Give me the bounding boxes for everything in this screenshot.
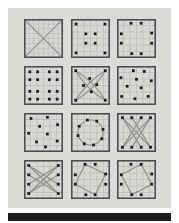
panel-4-four-clusters <box>24 66 63 105</box>
dot <box>83 163 86 166</box>
dot <box>84 193 87 196</box>
dot <box>103 99 106 102</box>
dot <box>120 76 123 79</box>
dot <box>93 163 96 166</box>
dot <box>56 90 59 93</box>
dot <box>27 173 30 176</box>
dot <box>103 69 106 72</box>
panel-2-corners-inner-square <box>71 19 110 58</box>
dot <box>100 137 103 140</box>
panel-11-tilted-quad-a <box>71 160 110 199</box>
dot <box>84 42 87 45</box>
panel-10-left-right-cross <box>24 160 63 199</box>
dot <box>56 70 59 73</box>
dot <box>103 52 106 55</box>
dot <box>56 123 59 126</box>
dot <box>140 52 143 55</box>
dot <box>36 70 39 73</box>
dot <box>27 192 30 195</box>
dot <box>27 164 30 167</box>
dot <box>73 173 76 176</box>
dot <box>150 32 153 35</box>
dot <box>46 116 49 119</box>
dot <box>126 85 129 88</box>
dot <box>130 116 133 119</box>
dot <box>140 116 143 119</box>
dot <box>89 90 92 93</box>
dot <box>120 173 123 176</box>
dot <box>74 69 77 72</box>
dot <box>27 183 30 186</box>
dot <box>140 22 143 25</box>
dot <box>95 120 98 123</box>
dot <box>150 183 153 186</box>
dot <box>140 193 143 196</box>
panel-8-circle-ring <box>71 113 110 152</box>
dot <box>150 42 153 45</box>
panel-grid <box>24 19 156 199</box>
dot <box>82 142 85 145</box>
panel-7-scatter-b <box>24 113 63 152</box>
screenshot-root <box>0 0 179 223</box>
dot <box>84 32 87 35</box>
dot <box>28 90 31 93</box>
dot <box>130 163 133 166</box>
dot <box>140 163 143 166</box>
dot <box>48 70 51 73</box>
dot <box>88 77 91 80</box>
panel-6-scatter-a <box>117 66 156 105</box>
dot <box>121 146 124 149</box>
dot <box>28 78 31 81</box>
dot <box>56 140 59 143</box>
dot <box>56 98 59 101</box>
dot <box>147 95 150 98</box>
dot <box>120 95 123 98</box>
figure-plate <box>8 8 171 208</box>
dot <box>130 193 133 196</box>
dot <box>150 173 153 176</box>
dot <box>28 70 31 73</box>
dot <box>140 146 143 149</box>
dot <box>101 128 104 131</box>
dot <box>130 146 133 149</box>
bottom-rule-bar <box>8 213 171 221</box>
dot <box>92 144 95 147</box>
dot <box>57 183 60 186</box>
dot <box>82 84 85 87</box>
dot <box>103 23 106 26</box>
dot <box>120 183 123 186</box>
dot <box>35 140 38 143</box>
panel-9-top-bottom-cross <box>117 113 156 152</box>
dot <box>76 134 79 137</box>
dot <box>104 173 107 176</box>
dot <box>74 52 77 55</box>
dot <box>93 42 96 45</box>
dot <box>48 90 51 93</box>
dot <box>120 42 123 45</box>
dot <box>44 146 47 149</box>
dot <box>130 52 133 55</box>
dot <box>46 133 49 136</box>
dot <box>149 146 152 149</box>
dot <box>28 98 31 101</box>
dot <box>48 98 51 101</box>
dot <box>135 78 138 81</box>
dot <box>93 193 96 196</box>
dot <box>149 116 152 119</box>
dot <box>57 192 60 195</box>
dot <box>74 99 77 102</box>
dot <box>30 117 33 120</box>
dot <box>120 32 123 35</box>
dot <box>36 90 39 93</box>
dot <box>130 22 133 25</box>
dot <box>56 78 59 81</box>
dot <box>27 132 30 135</box>
dot <box>74 23 77 26</box>
dot <box>104 183 107 186</box>
dot <box>48 78 51 81</box>
dot <box>57 173 60 176</box>
dot <box>132 69 135 72</box>
panel-3-dot-ring <box>117 19 156 58</box>
dot <box>77 125 80 128</box>
dot <box>57 164 60 167</box>
